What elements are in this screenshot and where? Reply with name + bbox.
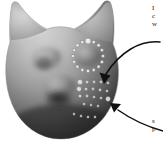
figure-root: I c w s p (0, 0, 163, 145)
left-eye-socket-shadow (37, 57, 51, 69)
caption-bottom-line-1: s (152, 117, 156, 125)
cat-head-illustration (0, 0, 163, 145)
figure-stage: I c w s p (0, 0, 163, 145)
caption-top-line-2: c (152, 12, 157, 20)
caption-top: I c w (152, 4, 157, 29)
caption-bottom-line-2: p (152, 125, 156, 133)
caption-top-line-1: I (152, 4, 157, 12)
caption-bottom: s p (152, 117, 156, 133)
right-eye-bump (74, 46, 102, 68)
cat-head-body (4, 1, 120, 145)
caption-top-line-3: w (152, 20, 157, 28)
